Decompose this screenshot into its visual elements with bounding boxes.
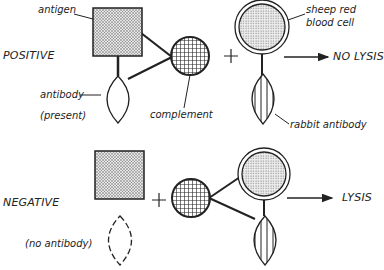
no-antibody-note: (no antibody) (25, 239, 92, 249)
rabbit-antibody-lens (252, 74, 274, 124)
antibody-present-note: (present) (40, 111, 86, 121)
sheep-rbc-inner (239, 4, 285, 50)
antigen-square (93, 8, 142, 56)
rabbit-antibody-lens-neg (254, 216, 276, 265)
absent-antibody-lens (109, 216, 132, 265)
antigen-square-neg (95, 151, 144, 199)
negative-title: NEGATIVE (3, 197, 59, 208)
antibody-lens (107, 76, 129, 123)
complement-label: complement (150, 110, 213, 120)
rabbit-antibody-label: rabbit antibody (290, 120, 367, 130)
positive-title: POSITIVE (3, 50, 55, 61)
negative-reaction (95, 148, 332, 265)
plus-sign-neg (152, 193, 166, 207)
plus-sign (224, 49, 238, 63)
no-lysis-result: NO LYSIS (333, 51, 384, 62)
rbc-label-line2: blood cell (306, 18, 354, 28)
complement-circle-neg (172, 179, 210, 217)
antigen-label: antigen (38, 5, 76, 15)
rbc-label-line1: sheep red (306, 5, 356, 15)
sheep-rbc-inner-neg (242, 152, 286, 196)
complement-circle (171, 37, 209, 75)
antibody-label: antibody (40, 90, 84, 100)
lysis-result: LYSIS (342, 192, 372, 203)
positive-reaction (74, 0, 328, 124)
